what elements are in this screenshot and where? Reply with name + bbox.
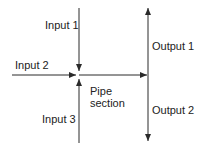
input-1-label: Input 1: [45, 19, 79, 31]
pipe-diagram: [0, 0, 203, 152]
input-2-label: Input 2: [15, 59, 49, 71]
pipe-label-line1: Pipe: [90, 85, 125, 97]
pipe-section-label: Pipe section: [90, 85, 125, 109]
output-1-label: Output 1: [152, 40, 194, 52]
input-3-label: Input 3: [42, 113, 76, 125]
pipe-label-line2: section: [90, 97, 125, 109]
output-2-label: Output 2: [152, 104, 194, 116]
